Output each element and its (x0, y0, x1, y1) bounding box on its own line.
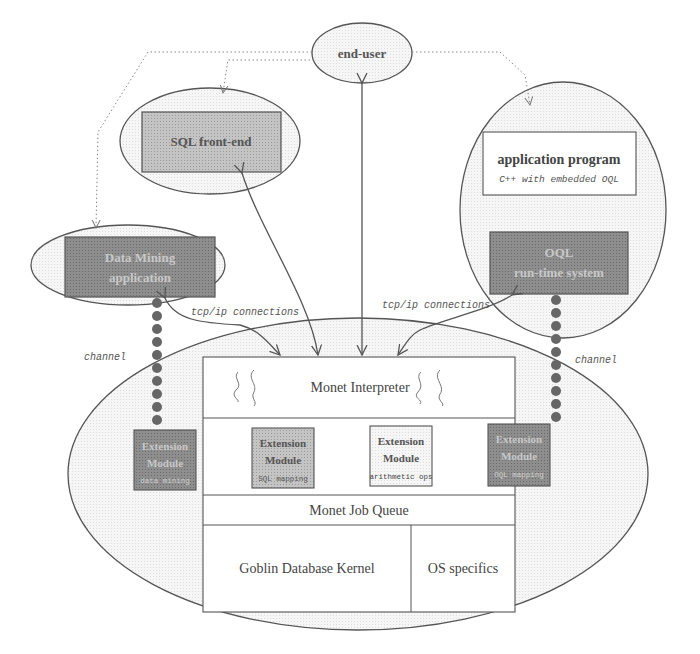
extension-module-oql-mapping: Extension Module OQL mapping (488, 424, 550, 486)
channel-left-label: channel (84, 352, 126, 363)
oql-runtime-label-line1: OQL (545, 245, 574, 260)
data-mining-box (65, 237, 215, 297)
extension-module-data-mining: Extension Module data mining (134, 430, 196, 490)
dotted-link-to-sql (223, 60, 314, 93)
svg-text:Module: Module (501, 450, 537, 462)
sql-frontend-label: SQL front-end (170, 134, 252, 149)
channel-right-label: channel (575, 355, 617, 366)
svg-text:Module: Module (265, 454, 301, 466)
end-user-label: end-user (338, 46, 387, 61)
svg-text:Module: Module (147, 457, 183, 469)
os-specifics-label: OS specifics (428, 561, 498, 576)
dotted-link-to-application (412, 52, 530, 105)
svg-text:data mining: data mining (140, 477, 190, 485)
oql-runtime-box (490, 232, 628, 294)
goblin-kernel-label: Goblin Database Kernel (239, 561, 374, 576)
svg-text:arithmetic ops: arithmetic ops (369, 473, 432, 481)
svg-text:Extension: Extension (378, 435, 424, 447)
application-program-title: application program (497, 152, 620, 167)
extension-module-sql-mapping: Extension Module SQL mapping (252, 428, 314, 488)
oql-client-ellipse (460, 82, 666, 338)
svg-text:Extension: Extension (496, 433, 542, 445)
svg-text:OQL mapping: OQL mapping (494, 471, 544, 479)
monet-job-queue-label: Monet Job Queue (309, 503, 409, 518)
svg-text:Extension: Extension (260, 437, 306, 449)
oql-runtime-label-line2: run-time system (514, 265, 604, 280)
application-program-subtitle: C++ with embedded OQL (499, 174, 619, 185)
monet-architecture-diagram: end-user SQL front-end Data Mining appli… (0, 0, 700, 654)
tcp-left-label: tcp/ip connections (191, 307, 299, 318)
extension-module-arithmetic-ops: Extension Module arithmetic ops (369, 426, 432, 486)
data-mining-label-line2: application (109, 270, 172, 285)
svg-text:Module: Module (383, 452, 419, 464)
tcp-right-label: tcp/ip connections (382, 300, 490, 311)
svg-text:SQL mapping: SQL mapping (258, 475, 308, 483)
monet-interpreter-label: Monet Interpreter (310, 380, 409, 395)
data-mining-label-line1: Data Mining (105, 250, 176, 265)
svg-text:Extension: Extension (142, 440, 188, 452)
